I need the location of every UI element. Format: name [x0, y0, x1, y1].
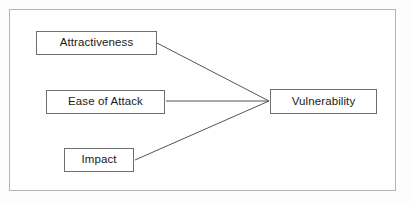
node-vulnerability[interactable]: Vulnerability [270, 89, 377, 114]
node-attractiveness[interactable]: Attractiveness [36, 31, 157, 55]
node-vulnerability-label: Vulnerability [290, 96, 358, 108]
edge-attractiveness-vulnerability [157, 43, 269, 101]
node-ease-of-attack-label: Ease of Attack [66, 96, 145, 108]
node-ease-of-attack[interactable]: Ease of Attack [46, 90, 165, 114]
node-attractiveness-label: Attractiveness [58, 37, 136, 49]
node-impact-label: Impact [79, 154, 118, 166]
node-impact[interactable]: Impact [64, 148, 134, 172]
diagram-canvas: Attractiveness Ease of Attack Impact Vul… [0, 0, 410, 205]
